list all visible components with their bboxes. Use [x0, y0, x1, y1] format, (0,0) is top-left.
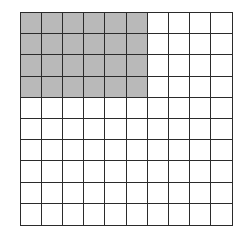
grid-cell	[148, 204, 169, 225]
grid-cell	[148, 13, 169, 34]
grid-cell	[169, 55, 190, 76]
grid-cell-shaded	[63, 55, 84, 76]
grid-cell-shaded	[127, 34, 148, 55]
grid-cell	[190, 140, 211, 161]
grid-cell	[105, 183, 126, 204]
grid-cell	[148, 55, 169, 76]
grid-cell	[127, 161, 148, 182]
grid-cell-shaded	[63, 77, 84, 98]
grid-cell-shaded	[84, 13, 105, 34]
grid-cell	[148, 34, 169, 55]
grid-cell-shaded	[84, 77, 105, 98]
grid-cell	[21, 119, 42, 140]
grid-cell	[42, 161, 63, 182]
grid-cell-shaded	[63, 34, 84, 55]
grid-cell-shaded	[84, 55, 105, 76]
grid-cell	[127, 140, 148, 161]
grid-cell	[169, 13, 190, 34]
grid-cell	[21, 161, 42, 182]
grid-cell	[148, 77, 169, 98]
grid-cell	[84, 183, 105, 204]
grid-cell	[84, 98, 105, 119]
grid-cell	[169, 183, 190, 204]
grid-cell	[190, 55, 211, 76]
grid-cell	[42, 140, 63, 161]
grid-cell	[84, 119, 105, 140]
grid-cell	[63, 119, 84, 140]
grid-cell-shaded	[21, 13, 42, 34]
grid-cell	[190, 161, 211, 182]
grid-cell	[148, 140, 169, 161]
grid-cell-shaded	[21, 77, 42, 98]
grid-cell	[63, 183, 84, 204]
grid-cell	[190, 183, 211, 204]
grid-cell	[211, 204, 232, 225]
grid-cell-shaded	[42, 13, 63, 34]
grid-cell	[127, 98, 148, 119]
grid-cell-shaded	[42, 55, 63, 76]
grid-cell	[63, 140, 84, 161]
grid-cell	[63, 204, 84, 225]
grid-cell-shaded	[42, 77, 63, 98]
grid-cell	[105, 98, 126, 119]
grid-cell-shaded	[105, 34, 126, 55]
grid-cell	[21, 183, 42, 204]
grid-cell	[190, 13, 211, 34]
hundred-grid	[20, 12, 233, 226]
grid-cell-shaded	[127, 13, 148, 34]
grid-cell	[105, 140, 126, 161]
grid-cell	[169, 119, 190, 140]
grid-cell	[148, 161, 169, 182]
grid-cell	[169, 140, 190, 161]
grid-cell	[84, 161, 105, 182]
grid-cell	[211, 98, 232, 119]
grid-cell	[148, 183, 169, 204]
grid-cell	[211, 140, 232, 161]
grid-cell	[190, 98, 211, 119]
grid-cell	[21, 204, 42, 225]
grid-cell	[169, 98, 190, 119]
grid-cell-shaded	[127, 55, 148, 76]
grid-cell-shaded	[105, 77, 126, 98]
grid-cell-shaded	[63, 13, 84, 34]
grid-cell	[190, 204, 211, 225]
grid-cell	[169, 34, 190, 55]
grid-cell	[105, 161, 126, 182]
grid-cell-shaded	[21, 55, 42, 76]
grid-cell	[211, 119, 232, 140]
grid-cell	[169, 204, 190, 225]
grid-cell	[190, 119, 211, 140]
grid-cell	[21, 98, 42, 119]
grid-cell-shaded	[127, 77, 148, 98]
grid-cell	[84, 204, 105, 225]
grid-cell	[169, 161, 190, 182]
grid-cell	[211, 77, 232, 98]
grid-cell	[127, 204, 148, 225]
grid-cell-shaded	[105, 13, 126, 34]
grid-cell	[21, 140, 42, 161]
grid-cell	[190, 34, 211, 55]
grid-cell	[42, 183, 63, 204]
grid-cell	[42, 204, 63, 225]
grid-cell-shaded	[42, 34, 63, 55]
grid-cell	[211, 55, 232, 76]
grid-cell	[127, 119, 148, 140]
grid-cell	[127, 183, 148, 204]
grid-cell	[148, 98, 169, 119]
grid-cell-shaded	[84, 34, 105, 55]
grid-cell-shaded	[21, 34, 42, 55]
grid-cell-shaded	[105, 55, 126, 76]
grid-cell	[211, 183, 232, 204]
grid-cell	[105, 204, 126, 225]
grid-cell	[169, 77, 190, 98]
grid-cell	[42, 119, 63, 140]
grid-cell	[148, 119, 169, 140]
grid-cell	[211, 34, 232, 55]
grid-cell	[84, 140, 105, 161]
grid-cell	[63, 161, 84, 182]
grid-cell	[105, 119, 126, 140]
grid-cell	[190, 77, 211, 98]
grid-cell	[211, 13, 232, 34]
grid-cell	[42, 98, 63, 119]
grid-cell	[63, 98, 84, 119]
